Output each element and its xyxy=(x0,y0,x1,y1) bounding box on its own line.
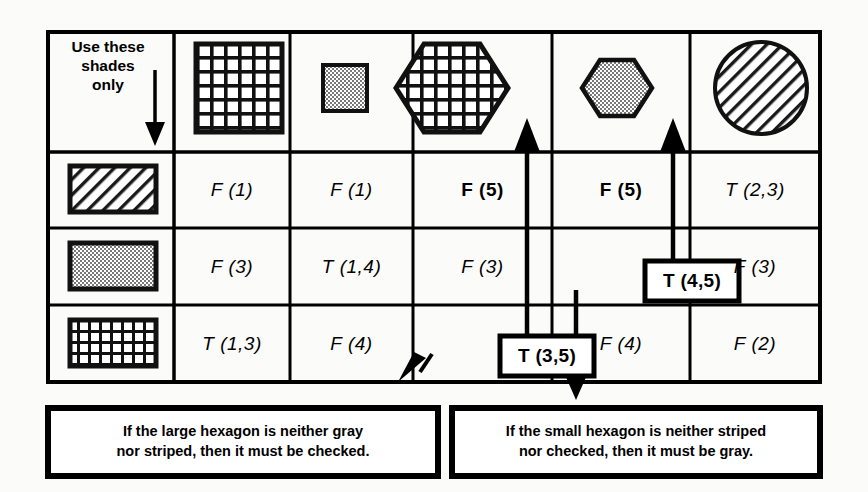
caption-small-hexagon: If the small hexagon is neither striped … xyxy=(452,408,820,476)
figure-root: Use these shades only Use these shades o… xyxy=(0,0,868,492)
cell-r1c1: F (1) xyxy=(174,152,290,228)
corner-line-1: Use these xyxy=(52,38,164,57)
cell-r1c2: F (1) xyxy=(290,152,413,228)
row-header-gray-swatch xyxy=(70,243,156,289)
row-header-striped-swatch xyxy=(70,166,156,212)
cell-r2c5: F (3) xyxy=(690,228,820,305)
caption-left-line1: If the large hexagon is neither gray xyxy=(123,422,363,442)
row-header-checked-swatch xyxy=(70,320,156,366)
caption-large-hexagon: If the large hexagon is neither gray nor… xyxy=(48,408,438,476)
header-large-checked-square xyxy=(196,44,282,132)
cell-r1c4: F (5) xyxy=(552,152,690,228)
cell-r3c2: F (4) xyxy=(290,305,413,382)
cell-r3c4: F (4) xyxy=(552,305,690,382)
corner-line-3: only xyxy=(52,76,164,95)
caption-left-line2: nor striped, then it must be checked. xyxy=(117,442,370,462)
corner-line-2: shades xyxy=(52,57,164,76)
corner-instruction-label: Use these shades only Use these shades o… xyxy=(52,38,164,95)
caption-right-line2: nor checked, then it must be gray. xyxy=(519,442,753,462)
cell-r2c3: F (3) xyxy=(413,228,552,305)
header-small-gray-square xyxy=(323,65,367,111)
cell-r1c3: F (5) xyxy=(413,152,552,228)
cell-r3c1: T (1,3) xyxy=(174,305,290,382)
cell-r2c1: F (3) xyxy=(174,228,290,305)
header-striped-circle xyxy=(713,40,809,136)
cell-r2c2: T (1,4) xyxy=(290,228,413,305)
cell-r3c5: F (2) xyxy=(690,305,820,382)
header-small-gray-hexagon xyxy=(576,54,660,124)
cell-r1c5: T (2,3) xyxy=(690,152,820,228)
caption-right-line1: If the small hexagon is neither striped xyxy=(506,422,766,442)
header-large-checked-hexagon xyxy=(390,38,516,138)
